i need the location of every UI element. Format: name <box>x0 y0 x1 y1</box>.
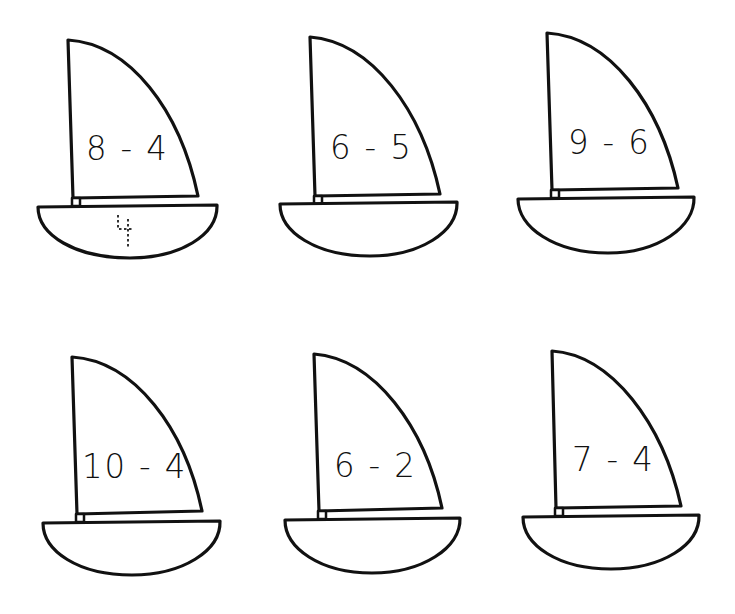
sailboat-5: 6 - 2 <box>270 345 470 585</box>
sail <box>68 40 198 198</box>
subtraction-problem: 6 - 2 <box>334 445 417 485</box>
answer-box-filled[interactable] <box>114 213 138 249</box>
hull <box>285 518 460 573</box>
sail <box>552 351 681 508</box>
mast-base <box>72 198 80 206</box>
sail <box>72 357 202 514</box>
sailboat-6: 7 - 4 <box>510 340 710 580</box>
sail <box>547 33 678 190</box>
worksheet-page: { "worksheet": { "title": "Sailboat subt… <box>0 0 735 614</box>
subtraction-problem: 8 - 4 <box>86 128 169 168</box>
hull <box>523 515 699 569</box>
sailboat-3: 9 - 6 <box>510 25 710 265</box>
sail <box>314 354 442 511</box>
sailboat-4: 10 - 4 <box>30 345 230 585</box>
subtraction-problem: 10 - 4 <box>82 446 187 486</box>
mast-base <box>76 514 84 522</box>
sailboat-2: 6 - 5 <box>272 30 472 270</box>
subtraction-problem: 7 - 4 <box>572 439 655 479</box>
hull <box>280 202 457 256</box>
subtraction-problem: 9 - 6 <box>568 122 651 162</box>
dotted-number-four-icon <box>114 213 138 249</box>
mast-base <box>555 508 563 516</box>
mast-base <box>318 511 326 519</box>
sailboat-1: 8 - 4 <box>30 30 230 270</box>
subtraction-problem: 6 - 5 <box>330 127 413 167</box>
mast-base <box>551 190 559 198</box>
hull <box>43 521 220 575</box>
hull <box>518 197 694 253</box>
sail <box>310 37 440 196</box>
